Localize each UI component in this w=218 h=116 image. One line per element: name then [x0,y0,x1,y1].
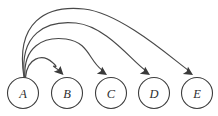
edge-a-d-arrowhead [140,67,153,80]
edge-a-c-arrowhead [97,67,110,80]
edge-a-d[interactable] [24,23,152,80]
node-b-label: B [63,87,71,101]
node-b[interactable]: B [52,78,83,109]
node-d[interactable]: D [139,78,170,109]
node-a-label: A [18,87,27,101]
node-e[interactable]: E [182,78,213,109]
node-c-label: C [107,87,116,101]
node-a[interactable]: A [8,78,39,109]
node-e-label: E [192,87,201,101]
node-d-label: D [148,87,158,101]
edge-layer [22,8,195,79]
edge-a-c-curve [25,39,102,78]
graph-svg: A B C D E [0,0,218,116]
node-layer: A B C D E [8,78,213,109]
edge-a-b[interactable] [26,58,67,79]
diagram-canvas: A B C D E [0,0,218,116]
edge-a-b-curve [26,58,59,78]
edge-a-d-curve [24,23,145,78]
node-c[interactable]: C [96,78,127,109]
edge-a-e[interactable] [22,8,195,79]
edge-a-e-curve [22,8,188,77]
